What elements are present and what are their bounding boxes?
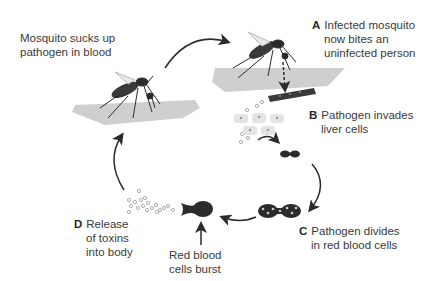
toxin-particles [127, 189, 174, 213]
label-b-letter: B [309, 109, 317, 121]
label-a-letter: A [312, 19, 320, 31]
label-start-line1: Mosquito sucks up [20, 32, 115, 44]
label-c-letter: C [299, 225, 307, 237]
arrow-to-burst [222, 217, 256, 221]
label-b: BPathogen invades liver cells [309, 108, 413, 136]
skin-patch-left [72, 100, 200, 125]
label-a-line2: now bites an [312, 32, 415, 46]
rbc-dividing-icon [258, 204, 301, 218]
label-burst: Red blood cells burst [169, 248, 221, 276]
pathogen-dividing-small-icon [280, 151, 300, 158]
liver-cells-icon [234, 113, 284, 135]
label-d: DRelease of toxins into body [74, 217, 133, 259]
arrow-to-divides [310, 164, 321, 210]
label-c-line2: in red blood cells [299, 238, 400, 252]
label-b-line1: Pathogen invades [321, 109, 413, 121]
skin-patch-right [212, 68, 345, 92]
label-c-line1: Pathogen divides [311, 225, 399, 237]
label-c: CPathogen divides in red blood cells [299, 224, 400, 252]
arrow-liver-to-rbc [258, 136, 278, 142]
arrow-to-mosquito-left [114, 135, 124, 190]
label-d-line1: Release [86, 218, 128, 230]
label-a: AInfected mosquito now bites an uninfect… [312, 18, 415, 60]
label-mosquito-sucks: Mosquito sucks up pathogen in blood [20, 31, 115, 59]
label-start-line2: pathogen in blood [20, 46, 111, 58]
label-a-line1: Infected mosquito [324, 19, 415, 31]
label-a-line3: uninfected person [312, 46, 415, 60]
rbc-burst-icon [181, 201, 213, 217]
arrow-to-mosquito-right [165, 39, 228, 68]
blood-vessel [268, 88, 316, 102]
label-d-line2: of toxins [74, 231, 133, 245]
label-burst-line2: cells burst [169, 263, 221, 275]
label-b-line2: liver cells [309, 122, 413, 136]
label-d-letter: D [74, 218, 82, 230]
label-d-line3: into body [74, 245, 133, 259]
label-burst-line1: Red blood [169, 249, 221, 261]
